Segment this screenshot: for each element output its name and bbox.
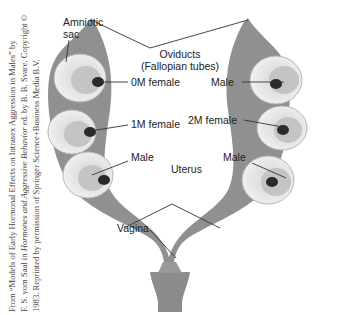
label-0m-female: 0M female [131,76,180,88]
vagina-label: Vagina [117,222,149,234]
label-left-male: Male [131,151,154,163]
oviducts-label: Oviducts (Fallopian tubes) [140,48,220,72]
uterus-label: Uterus [171,163,202,175]
label-right-top-male: Male [211,76,234,88]
amniotic-sac-label: Amniotic sac [63,16,103,40]
vagina [150,272,190,312]
label-2m-female: 2M female [188,114,237,126]
label-1m-female: 1M female [131,118,180,130]
label-right-bottom-male: Male [223,151,246,163]
